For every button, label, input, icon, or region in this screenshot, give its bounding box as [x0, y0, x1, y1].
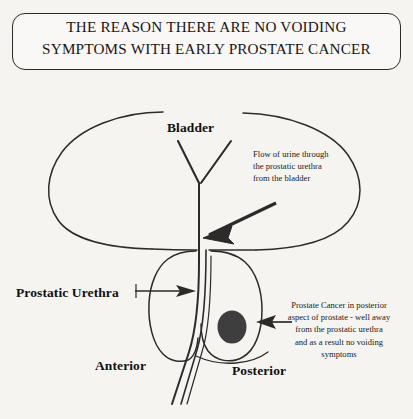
annotation-prostate-cancer-line-5: symptoms [321, 349, 356, 359]
annotation-prostate-cancer: Prostate Cancer in posterior aspect of p… [268, 299, 410, 360]
bladder-floor-left [152, 249, 197, 250]
prostate-cancer-tumor [218, 311, 247, 344]
annotation-urine-flow: Flow of urine through the prostatic uret… [253, 148, 365, 185]
annotation-urine-flow-line-1: Flow of urine through [253, 149, 329, 159]
title-line-2: SYMPTOMS WITH EARLY PROSTATE CANCER [42, 40, 371, 57]
title-line-1: THE REASON THERE ARE NO VOIDING [66, 18, 346, 35]
bladder-outline-left [49, 112, 163, 249]
bladder-leader-left [178, 141, 199, 183]
diagram-canvas: THE REASON THERE ARE NO VOIDING SYMPTOMS… [0, 0, 413, 419]
prostate-posterior-base-curve [196, 352, 268, 363]
prostate-lobe-posterior [201, 251, 262, 361]
annotation-urine-flow-line-2: the prostatic urethra [253, 161, 322, 171]
bladder-leader-right [201, 141, 231, 183]
page-title: THE REASON THERE ARE NO VOIDING SYMPTOMS… [12, 16, 401, 60]
flow-arrow [209, 203, 276, 235]
annotation-prostate-cancer-line-2: aspect of prostate - well away [288, 312, 390, 322]
label-bladder: Bladder [167, 120, 214, 136]
label-posterior: Posterior [232, 363, 286, 379]
label-prostatic-urethra: Prostatic Urethra [16, 285, 119, 301]
label-anterior: Anterior [95, 358, 146, 374]
annotation-prostate-cancer-line-3: from the prostatic urethra [295, 324, 383, 334]
annotation-urine-flow-line-3: from the bladder [253, 173, 310, 183]
annotation-prostate-cancer-line-4: and as a result no voiding [295, 337, 383, 347]
annotation-prostate-cancer-line-1: Prostate Cancer in posterior [291, 300, 387, 310]
